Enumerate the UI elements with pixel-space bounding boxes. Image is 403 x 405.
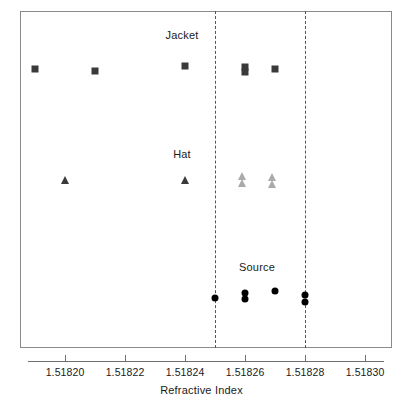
group-label-hat: Hat	[173, 148, 191, 160]
x-axis-tick-label-4: 1.51826	[226, 366, 265, 378]
data-point-source-1	[212, 295, 219, 302]
data-point-jacket-2	[92, 68, 99, 75]
x-axis-tick-2	[125, 355, 126, 362]
x-axis-tick-4	[245, 355, 246, 362]
data-point-source-3	[242, 296, 249, 303]
x-axis-tick-label-3: 1.51824	[166, 366, 205, 378]
x-axis-tick-3	[185, 355, 186, 362]
data-point-hat-1	[61, 176, 69, 184]
x-axis-line	[28, 361, 384, 362]
data-point-jacket-1	[32, 66, 39, 73]
data-point-jacket-3	[182, 63, 189, 70]
data-point-source-5	[302, 292, 309, 299]
scatter-chart-figure: JacketHatSource 1.518201.518221.518241.5…	[0, 0, 403, 405]
data-point-jacket-6	[272, 66, 279, 73]
plot-area-frame	[20, 11, 392, 348]
group-label-source: Source	[239, 261, 275, 273]
x-axis-tick-label-2: 1.51822	[106, 366, 145, 378]
x-axis-tick-label-5: 1.51828	[286, 366, 325, 378]
x-axis-tick-5	[305, 355, 306, 362]
data-point-hat-6	[268, 180, 276, 188]
data-point-source-4	[272, 288, 279, 295]
x-axis-tick-label-1: 1.51820	[46, 366, 85, 378]
data-point-jacket-5	[242, 69, 249, 76]
data-point-hat-4	[238, 179, 246, 187]
data-point-hat-2	[181, 176, 189, 184]
data-point-source-6	[302, 299, 309, 306]
x-axis-tick-6	[365, 355, 366, 362]
x-axis-tick-label-6: 1.51830	[346, 366, 385, 378]
x-axis-title: Refractive Index	[0, 384, 403, 396]
group-label-jacket: Jacket	[166, 29, 199, 41]
x-axis-tick-1	[65, 355, 66, 362]
